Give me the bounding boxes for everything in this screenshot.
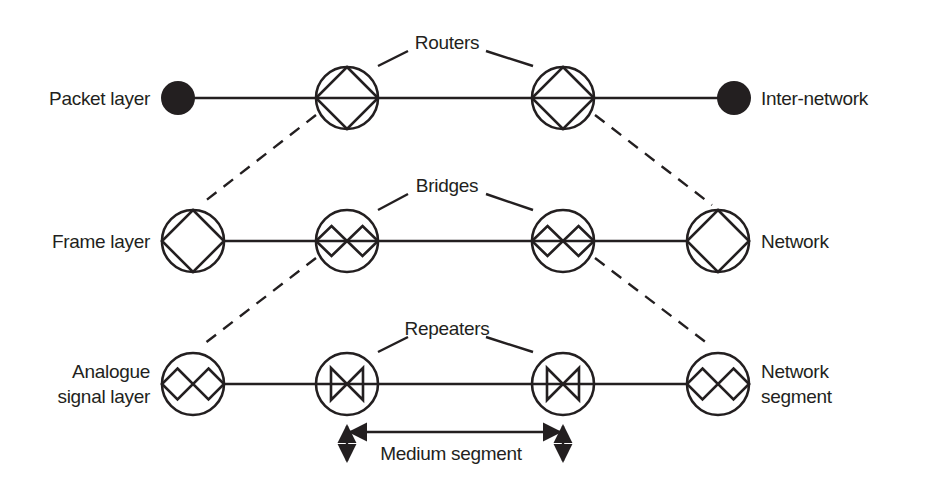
router-icon-right [532,67,594,129]
router-icon-left [316,67,378,129]
label-analogue-line2: signal layer [57,386,150,407]
callout-lines [378,51,533,352]
repeater-icon-right [532,353,594,415]
label-network: Network [761,231,829,252]
label-packet-layer: Packet layer [49,88,151,109]
row-frame-layer [162,210,749,272]
label-bridges: Bridges [416,175,478,196]
label-network-segment-line1: Network [761,361,829,382]
frame-node-icon-left [162,210,224,272]
endpoint-dot-left [161,81,195,115]
bridge-icon-left [316,210,378,272]
endpoint-dot-right [717,81,751,115]
dashed-connectors [200,115,712,347]
label-inter-network: Inter-network [761,88,869,109]
label-routers: Routers [415,32,479,53]
label-medium-segment: Medium segment [380,443,523,464]
label-network-segment-line2: segment [761,386,833,407]
frame-node-icon-right [687,210,749,272]
network-layers-diagram: Packet layer Inter-network Routers Frame… [0,0,926,494]
row-analogue-layer [162,353,749,415]
label-repeaters: Repeaters [405,318,490,339]
bridge-icon-right [532,210,594,272]
label-frame-layer: Frame layer [52,231,151,252]
repeater-icon-left [316,353,378,415]
row-packet-layer [161,67,751,129]
label-analogue-line1: Analogue [72,361,150,382]
signal-node-icon-left [162,353,224,415]
signal-node-icon-right [687,353,749,415]
